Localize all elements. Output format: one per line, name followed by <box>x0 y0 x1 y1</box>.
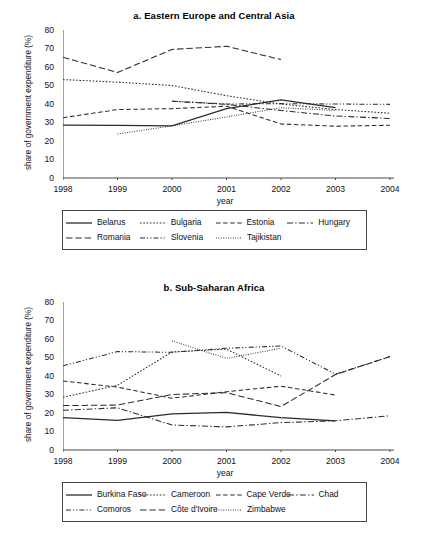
series-line <box>63 346 390 374</box>
legend-item[interactable]: Cape Verde <box>216 490 288 500</box>
legend-label: Chad <box>319 490 339 498</box>
legend-label: Zimbabwe <box>247 505 286 513</box>
legend-item[interactable]: Romania <box>66 233 140 243</box>
legend-line-swatch-icon <box>140 218 166 228</box>
x-axis-tick-label: 2003 <box>316 456 356 466</box>
y-axis-tick-label: 30 <box>32 117 54 127</box>
x-axis-tick-label: 2002 <box>261 456 301 466</box>
chart-b-plot-area: 0102030405060708019981999200020012002200… <box>63 302 390 450</box>
legend-label: Bulgaria <box>171 218 202 226</box>
legend-label: Estonia <box>247 218 275 226</box>
chart-b-title: b. Sub-Saharan Africa <box>0 282 428 293</box>
y-axis-tick-label: 0 <box>32 173 54 183</box>
chart-panel-b: b. Sub-Saharan Africa share of governmen… <box>0 272 428 544</box>
legend-label: Comoros <box>97 505 131 513</box>
legend-item[interactable]: Bulgaria <box>140 218 216 228</box>
legend-item[interactable]: Hungary <box>287 218 363 228</box>
y-axis-tick-label: 40 <box>32 371 54 381</box>
figure-page: a. Eastern Europe and Central Asia share… <box>0 0 428 544</box>
series-line <box>63 408 390 427</box>
legend-line-swatch-icon <box>66 505 92 515</box>
chart-a-plot-area: 0102030405060708019981999200020012002200… <box>63 30 390 178</box>
legend-item[interactable]: Comoros <box>66 505 140 515</box>
chart-a-legend: BelarusBulgariaEstoniaHungaryRomaniaSlov… <box>62 210 367 250</box>
legend-row: BelarusBulgariaEstoniaHungary <box>66 215 363 230</box>
legend-line-swatch-icon <box>216 490 242 500</box>
y-axis-tick-label: 60 <box>32 62 54 72</box>
y-axis-tick-label: 70 <box>32 43 54 53</box>
y-axis-tick-label: 10 <box>32 154 54 164</box>
series-line <box>172 341 281 359</box>
x-axis-tick-label: 1999 <box>98 456 138 466</box>
x-axis-tick-label: 2000 <box>152 456 192 466</box>
chart-a-x-axis-label: year <box>60 196 390 206</box>
y-axis-tick-label: 50 <box>32 352 54 362</box>
legend-item[interactable]: Burkina Faso <box>66 490 140 500</box>
legend-label: Burkina Faso <box>97 490 146 498</box>
y-axis-tick-label: 10 <box>32 426 54 436</box>
x-axis-tick-label: 2004 <box>370 184 410 194</box>
y-axis-tick-label: 40 <box>32 99 54 109</box>
legend-row: RomaniaSloveniaTajikistan <box>66 230 363 245</box>
axis-lines <box>63 302 394 450</box>
series-line <box>118 108 336 134</box>
y-axis-tick-label: 50 <box>32 80 54 90</box>
y-axis-tick-label: 70 <box>32 315 54 325</box>
x-axis-tick-label: 1999 <box>98 184 138 194</box>
legend-item[interactable]: Belarus <box>66 218 140 228</box>
chart-b-legend: Burkina FasoCameroonCape VerdeChadComoro… <box>62 482 367 522</box>
series-line <box>63 412 336 420</box>
x-axis-tick-label: 2001 <box>207 456 247 466</box>
legend-line-swatch-icon <box>288 490 314 500</box>
chart-a-title: a. Eastern Europe and Central Asia <box>0 10 428 21</box>
legend-row: Burkina FasoCameroonCape VerdeChad <box>66 487 363 502</box>
legend-label: Romania <box>97 233 131 241</box>
x-axis-tick-label: 1998 <box>43 184 83 194</box>
legend-line-swatch-icon <box>216 505 242 515</box>
legend-item[interactable]: Chad <box>288 490 364 500</box>
y-axis-tick-label: 80 <box>32 25 54 35</box>
legend-line-swatch-icon <box>216 233 242 243</box>
legend-label: Belarus <box>97 218 125 226</box>
series-line <box>63 357 390 407</box>
chart-b-x-axis-label: year <box>60 468 390 478</box>
y-axis-tick-label: 60 <box>32 334 54 344</box>
y-axis-tick-label: 30 <box>32 389 54 399</box>
legend-line-swatch-icon <box>140 233 166 243</box>
x-axis-tick-label: 2000 <box>152 184 192 194</box>
x-axis-tick-label: 2003 <box>316 184 356 194</box>
legend-item[interactable]: Tajikistan <box>216 233 296 243</box>
x-axis-tick-label: 1998 <box>43 456 83 466</box>
legend-label: Tajikistan <box>247 233 281 241</box>
y-axis-tick-label: 20 <box>32 408 54 418</box>
legend-line-swatch-icon <box>287 218 313 228</box>
legend-line-swatch-icon <box>140 505 166 515</box>
legend-label: Cameroon <box>171 490 210 498</box>
legend-item[interactable]: Côte d'Ivoire <box>140 505 216 515</box>
y-axis-tick-label: 0 <box>32 445 54 455</box>
legend-item[interactable]: Cameroon <box>140 490 216 500</box>
x-axis-tick-label: 2002 <box>261 184 301 194</box>
legend-line-swatch-icon <box>66 218 92 228</box>
legend-item[interactable]: Estonia <box>216 218 288 228</box>
series-line <box>63 381 336 398</box>
legend-line-swatch-icon <box>66 233 92 243</box>
legend-item[interactable]: Slovenia <box>140 233 216 243</box>
y-axis-tick-label: 80 <box>32 297 54 307</box>
legend-label: Cape Verde <box>247 490 291 498</box>
legend-label: Slovenia <box>171 233 203 241</box>
chart-panel-a: a. Eastern Europe and Central Asia share… <box>0 0 428 272</box>
legend-item[interactable]: Zimbabwe <box>216 505 296 515</box>
y-axis-tick-label: 20 <box>32 136 54 146</box>
x-axis-tick-label: 2004 <box>370 456 410 466</box>
legend-line-swatch-icon <box>66 490 92 500</box>
legend-line-swatch-icon <box>216 218 242 228</box>
legend-line-swatch-icon <box>140 490 166 500</box>
x-axis-tick-label: 2001 <box>207 184 247 194</box>
series-line <box>63 349 281 397</box>
series-line <box>63 46 281 72</box>
legend-row: ComorosCôte d'IvoireZimbabwe <box>66 502 363 517</box>
legend-label: Hungary <box>318 218 350 226</box>
legend-label: Côte d'Ivoire <box>171 505 218 513</box>
